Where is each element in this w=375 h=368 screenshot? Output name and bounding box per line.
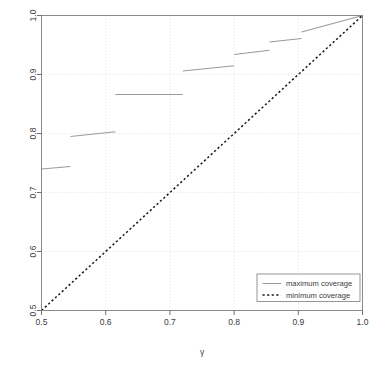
figure-canvas: 0.50.60.70.80.91.00.50.60.70.80.91.0 γ m… bbox=[0, 0, 375, 368]
xtick-label-3: 0.8 bbox=[228, 317, 240, 327]
xtick-label-5: 1.0 bbox=[357, 317, 369, 327]
legend-label-1: minimum coverage bbox=[286, 291, 350, 300]
xtick-label-4: 0.9 bbox=[292, 317, 304, 327]
plot-background bbox=[0, 0, 375, 368]
ytick-label-5: 1.0 bbox=[28, 9, 38, 21]
ytick-label-4: 0.9 bbox=[28, 68, 38, 80]
ytick-label-3: 0.8 bbox=[28, 127, 38, 139]
coverage-plot: 0.50.60.70.80.91.00.50.60.70.80.91.0 γ m… bbox=[0, 0, 375, 368]
ytick-label-2: 0.7 bbox=[28, 186, 38, 198]
xtick-label-2: 0.7 bbox=[164, 317, 176, 327]
xtick-label-0: 0.5 bbox=[36, 317, 48, 327]
ytick-label-0: 0.5 bbox=[28, 304, 38, 316]
chart-legend[interactable]: maximum coverageminimum coverage bbox=[257, 274, 360, 302]
xtick-label-1: 0.6 bbox=[100, 317, 112, 327]
legend-label-0: maximum coverage bbox=[286, 279, 352, 288]
ytick-label-1: 0.6 bbox=[28, 245, 38, 257]
